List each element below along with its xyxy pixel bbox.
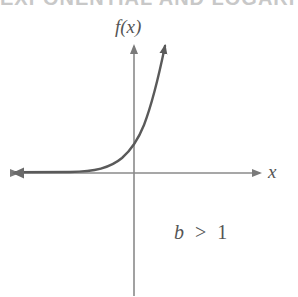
condition-variable: b <box>174 221 184 243</box>
condition-value: 1 <box>217 221 227 243</box>
graph-svg: f(x) x b > 1 <box>0 0 298 297</box>
left-arrowhead-icon <box>12 168 24 179</box>
condition-operator: > <box>195 221 206 243</box>
exponential-curve <box>16 46 165 172</box>
y-axis-label: f(x) <box>115 16 141 38</box>
exponential-graph-figure: EXPONENTIAL AND LOGARITHMIC FUNCTIONS f(… <box>0 0 298 297</box>
condition-annotation: b > 1 <box>174 221 227 243</box>
x-axis-label: x <box>267 161 277 182</box>
